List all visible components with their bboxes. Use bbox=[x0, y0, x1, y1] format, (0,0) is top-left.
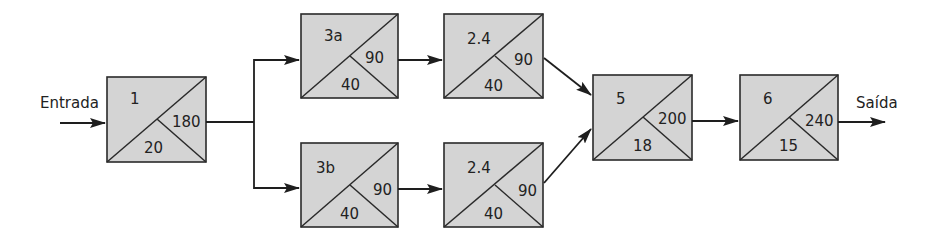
node-5-id: 5 bbox=[616, 90, 626, 108]
node-1: 1 180 20 bbox=[107, 77, 206, 162]
node-2-4-bottom-right-value: 90 bbox=[518, 182, 537, 200]
node-3a: 3a 90 40 bbox=[301, 14, 398, 98]
node-2-4-bottom-id: 2.4 bbox=[467, 159, 491, 177]
node-6: 6 240 15 bbox=[740, 75, 838, 160]
node-2-4-top-id: 2.4 bbox=[467, 30, 491, 48]
output-label: Saída bbox=[856, 94, 898, 112]
arrow-1-to-3a bbox=[254, 60, 299, 122]
node-2-4-bottom: 2.4 90 40 bbox=[444, 143, 543, 227]
node-3b-bottom-value: 40 bbox=[340, 205, 359, 223]
node-3a-right-value: 90 bbox=[365, 49, 384, 67]
input-label: Entrada bbox=[40, 94, 99, 112]
node-2-4-top: 2.4 90 40 bbox=[444, 14, 543, 98]
arrow-2-4-bottom-to-5 bbox=[544, 129, 591, 183]
node-3b-id: 3b bbox=[316, 159, 335, 177]
node-3b-right-value: 90 bbox=[373, 181, 392, 199]
node-3b: 3b 90 40 bbox=[301, 143, 398, 227]
node-5-right-value: 200 bbox=[658, 110, 687, 128]
arrow-1-to-3b bbox=[254, 122, 299, 188]
node-3a-id: 3a bbox=[324, 27, 343, 45]
node-2-4-bottom-bottom-value: 40 bbox=[484, 205, 503, 223]
node-3a-bottom-value: 40 bbox=[341, 76, 360, 94]
node-1-right-value: 180 bbox=[172, 113, 201, 131]
node-1-bottom-value: 20 bbox=[144, 139, 163, 157]
node-6-id: 6 bbox=[763, 90, 773, 108]
node-6-right-value: 240 bbox=[805, 112, 834, 130]
arrow-2-4-top-to-5 bbox=[544, 58, 591, 95]
process-flow-diagram: Entrada 1 180 20 3a 90 40 3b 90 40 2. bbox=[0, 0, 933, 241]
node-2-4-top-bottom-value: 40 bbox=[484, 77, 503, 95]
node-6-bottom-value: 15 bbox=[779, 137, 798, 155]
node-2-4-top-right-value: 90 bbox=[514, 51, 533, 69]
node-1-id: 1 bbox=[130, 90, 140, 108]
node-5: 5 200 18 bbox=[593, 75, 692, 160]
node-5-bottom-value: 18 bbox=[633, 137, 652, 155]
